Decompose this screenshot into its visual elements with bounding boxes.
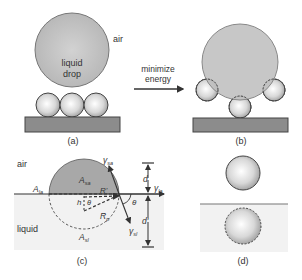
panel-label-b: (b)	[236, 136, 247, 146]
arrow-text-minimize: minimize	[141, 64, 175, 74]
label-d: d	[143, 174, 148, 184]
panel-a: liquid drop air (a)	[25, 13, 123, 146]
label-A-la: Ala	[32, 184, 43, 195]
panel-label-d: (d)	[238, 256, 249, 266]
particle	[60, 93, 84, 117]
panel-d: (d)	[200, 156, 288, 266]
label-gamma-sa: γsa	[103, 155, 113, 166]
liquid-drop	[202, 24, 278, 100]
drop-label-drop: drop	[63, 69, 81, 79]
particle	[84, 93, 108, 117]
label-R-prime: R'	[100, 186, 108, 195]
particle-in-liquid	[225, 208, 261, 244]
minimize-energy-arrow: minimize energy	[134, 64, 183, 89]
air-label-c: air	[17, 159, 27, 169]
particle	[36, 93, 60, 117]
panel-label-c: (c)	[77, 256, 88, 266]
particle-in-air	[226, 156, 260, 190]
label-theta-inner: θ	[87, 198, 91, 207]
label-h: h	[77, 198, 82, 207]
air-label: air	[113, 34, 123, 44]
liquid-label-c: liquid	[17, 224, 38, 234]
label-theta-outer: θ	[132, 198, 137, 207]
substrate	[25, 117, 120, 132]
panel-b: (b)	[193, 24, 288, 146]
label-gamma-la: γla	[154, 183, 163, 194]
panel-label-a: (a)	[68, 136, 79, 146]
wetting-diagram: liquid drop air (a) minimize energy (b)	[0, 0, 302, 280]
substrate	[193, 118, 288, 132]
label-d-prime: d'	[142, 216, 149, 226]
drop-label-liquid: liquid	[61, 58, 82, 68]
arrow-text-energy: energy	[145, 74, 172, 84]
panel-c: air liquid Ala Asa Asl R' h θ Rp θ γsa γ…	[14, 155, 164, 266]
